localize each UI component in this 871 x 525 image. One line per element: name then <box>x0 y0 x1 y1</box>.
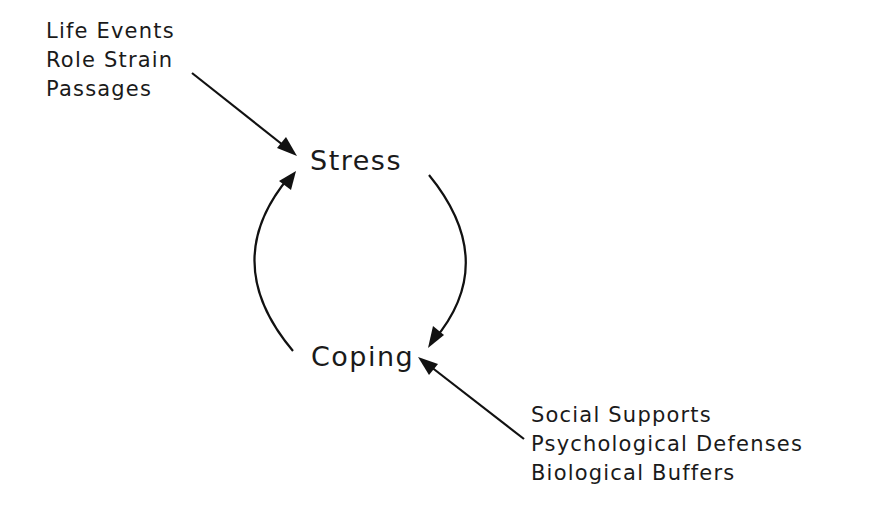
diagram-canvas <box>0 0 871 525</box>
arrowhead-icon <box>418 357 438 375</box>
arrow-stress-to-coping <box>428 175 466 348</box>
arrow-coping-to-stress <box>254 171 296 351</box>
arrow-stressors-to-stress <box>192 73 297 156</box>
arrowhead-icon <box>277 137 297 156</box>
arrow-resources-to-coping <box>418 357 524 439</box>
